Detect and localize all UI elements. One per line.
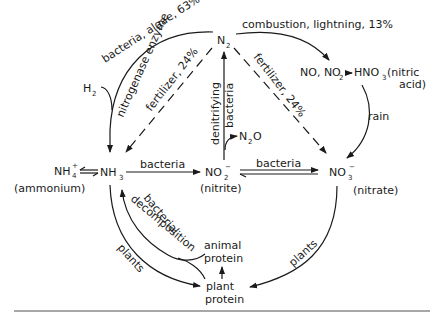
svg-text:NO: NO bbox=[329, 166, 346, 179]
nitrogen-cycle-diagram: N 2 bacteria, algae, 63% nitrogenase enz… bbox=[0, 0, 441, 321]
svg-text:O: O bbox=[253, 130, 262, 143]
svg-text:−: − bbox=[225, 163, 231, 171]
node-hno3: HNO 3 (nitric acid) bbox=[354, 66, 426, 91]
svg-text:3: 3 bbox=[382, 74, 386, 82]
svg-text:2: 2 bbox=[226, 42, 230, 50]
label-denitrifying-bacteria: bacteria bbox=[223, 83, 236, 128]
node-h2: H 2 bbox=[83, 82, 96, 98]
node-nh3: NH 3 bbox=[100, 166, 123, 182]
svg-text:NO, NO: NO, NO bbox=[300, 66, 341, 79]
edge-rain-arrow bbox=[347, 85, 369, 158]
svg-text:2: 2 bbox=[92, 90, 96, 98]
equilibrium-no2-no3 bbox=[240, 170, 318, 177]
svg-text:2: 2 bbox=[224, 174, 228, 182]
node-plant-protein: plant protein bbox=[205, 280, 244, 306]
svg-text:NO: NO bbox=[205, 166, 222, 179]
node-nh4: NH 4 + (ammonium) bbox=[14, 162, 85, 195]
label-bacteria-nh3-no2: bacteria bbox=[140, 158, 185, 171]
svg-text:(nitrite): (nitrite) bbox=[200, 182, 242, 195]
svg-text:animal: animal bbox=[204, 239, 241, 252]
edge-no3-plants-arrow bbox=[250, 186, 337, 287]
svg-text:−: − bbox=[349, 163, 355, 171]
label-plants-left: plants bbox=[115, 241, 147, 275]
label-combustion-lightning: combustion, lightning, 13% bbox=[242, 18, 393, 31]
edge-combustion-arrow bbox=[236, 32, 329, 60]
label-bacteria-no2-no3: bacteria bbox=[256, 157, 301, 170]
svg-text:acid): acid) bbox=[399, 78, 426, 91]
label-decomposition: decomposition bbox=[128, 192, 198, 254]
svg-text:(ammonium): (ammonium) bbox=[14, 182, 85, 195]
svg-text:3: 3 bbox=[348, 174, 352, 182]
svg-text:2: 2 bbox=[248, 138, 252, 146]
svg-text:H: H bbox=[83, 82, 91, 95]
svg-text:N: N bbox=[217, 34, 225, 47]
node-n2o: N 2 O bbox=[239, 130, 262, 146]
svg-text:N: N bbox=[239, 130, 247, 143]
equilibrium-nh4-nh3 bbox=[80, 167, 98, 176]
node-animal-protein: animal protein bbox=[204, 239, 243, 265]
edge-n2o-arrow bbox=[225, 136, 237, 150]
svg-text:3: 3 bbox=[119, 174, 123, 182]
node-no2: NO 2 − (nitrite) bbox=[200, 163, 242, 195]
edge-plant-decomposition bbox=[178, 258, 205, 279]
svg-text:HNO: HNO bbox=[354, 66, 380, 79]
svg-text:protein: protein bbox=[204, 252, 243, 265]
svg-text:(nitrate): (nitrate) bbox=[353, 184, 398, 197]
node-nox: NO, NO 2 bbox=[300, 66, 343, 82]
label-rain: rain bbox=[368, 110, 389, 123]
svg-text:plant: plant bbox=[206, 280, 235, 293]
svg-text:2: 2 bbox=[339, 74, 343, 82]
label-fertilizer-right: fertilizer, 24% bbox=[251, 51, 309, 120]
label-denitrifying: denitrifying bbox=[209, 82, 222, 145]
edge-h2-join bbox=[101, 87, 112, 110]
svg-text:4: 4 bbox=[72, 172, 77, 180]
svg-text:NH: NH bbox=[100, 166, 117, 179]
node-no3: NO 3 − (nitrate) bbox=[329, 163, 398, 197]
svg-text:NH: NH bbox=[54, 165, 71, 178]
svg-text:protein: protein bbox=[205, 293, 244, 306]
svg-text:+: + bbox=[72, 162, 78, 170]
node-n2: N 2 bbox=[217, 34, 230, 50]
